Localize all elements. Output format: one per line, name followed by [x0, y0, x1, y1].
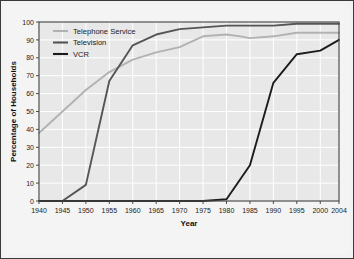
y-tick-label: 90	[26, 37, 34, 44]
legend-label-telephone-service: Telephone Service	[73, 27, 135, 36]
chart-figure: 0102030405060708090100194019451950195519…	[0, 0, 354, 259]
x-tick-label: 1945	[55, 207, 71, 214]
y-axis-title: Percentage of Households	[9, 61, 18, 162]
x-tick-label: 1965	[148, 207, 164, 214]
y-tick-label: 50	[26, 108, 34, 115]
x-axis-title: Year	[181, 219, 198, 228]
y-tick-label: 100	[22, 19, 34, 26]
x-tick-label: 1940	[31, 207, 47, 214]
y-tick-label: 30	[26, 144, 34, 151]
legend-label-vcr: VCR	[73, 50, 90, 59]
x-tick-label: 1990	[266, 207, 282, 214]
legend-label-television: Television	[73, 38, 106, 47]
line-chart: 0102030405060708090100194019451950195519…	[5, 5, 351, 256]
y-tick-label: 70	[26, 72, 34, 79]
y-axis: 0102030405060708090100	[22, 19, 39, 205]
x-tick-label: 1980	[219, 207, 235, 214]
y-tick-label: 40	[26, 126, 34, 133]
y-tick-label: 0	[30, 198, 34, 205]
y-tick-label: 20	[26, 162, 34, 169]
x-tick-label: 2004	[331, 207, 347, 214]
x-tick-label: 1970	[172, 207, 188, 214]
x-tick-label: 2000	[312, 207, 328, 214]
x-tick-label: 1995	[289, 207, 305, 214]
x-axis: 1940194519501955196019651970197519801985…	[31, 201, 347, 214]
x-tick-label: 1950	[78, 207, 94, 214]
y-tick-label: 10	[26, 180, 34, 187]
y-tick-label: 80	[26, 54, 34, 61]
y-tick-label: 60	[26, 90, 34, 97]
x-tick-label: 1985	[242, 207, 258, 214]
x-tick-label: 1960	[125, 207, 141, 214]
chart-canvas: 0102030405060708090100194019451950195519…	[5, 5, 349, 254]
x-tick-label: 1955	[102, 207, 118, 214]
x-tick-label: 1975	[195, 207, 211, 214]
